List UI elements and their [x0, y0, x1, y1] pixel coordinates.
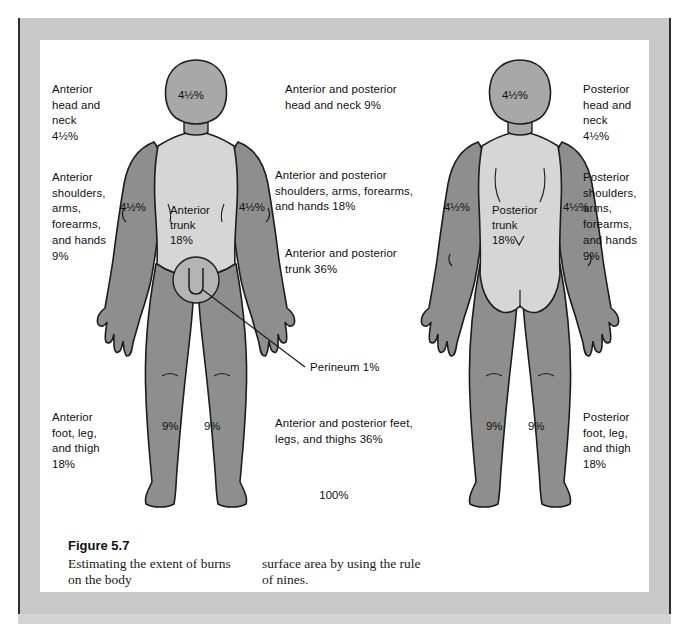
label-total-shoulders-arms-forearms-hands: Anterior and posterior shoulders, arms, … — [275, 168, 455, 215]
figure-caption-column-2: surface area by using the rule of nines. — [262, 556, 432, 589]
anterior-head-percent: 4½% — [178, 89, 204, 101]
posterior-left-leg-percent: 9% — [486, 420, 502, 432]
figure-caption-column-1: Estimating the extent of burns on the bo… — [68, 556, 238, 589]
label-total-head-and-neck: Anterior and posterior head and neck 9% — [285, 82, 455, 113]
label-anterior-shoulders-arms-forearms-hands: Anterior shoulders, arms, forearms, and … — [52, 170, 142, 264]
label-posterior-foot-leg-thigh: Posterior foot, leg, and thigh 18% — [583, 410, 669, 473]
label-posterior-head-and-neck: Posterior head and neck 4½% — [583, 82, 663, 145]
frame-band-top — [18, 18, 671, 40]
anterior-right-arm-percent: 4½% — [239, 201, 265, 213]
label-total-trunk: Anterior and posterior trunk 36% — [285, 246, 455, 277]
anterior-trunk-label: Anterior trunk 18% — [170, 203, 210, 248]
posterior-right-leg-percent: 9% — [528, 420, 544, 432]
figure-caption-title: Figure 5.7 — [68, 538, 488, 553]
posterior-trunk-label: Posterior trunk 18% — [492, 203, 538, 248]
label-total-body-percent: 100% — [304, 488, 364, 504]
frame-band-left — [18, 18, 40, 614]
label-total-feet-legs-thighs: Anterior and posterior feet, legs, and t… — [275, 416, 455, 447]
frame-rule-right — [669, 18, 671, 615]
anterior-left-leg-percent: 9% — [162, 420, 178, 432]
perineum-region — [173, 257, 219, 303]
label-posterior-shoulders-arms-forearms-hands: Posterior shoulders, arms, forearms, and… — [583, 170, 669, 264]
anterior-right-leg-percent: 9% — [204, 420, 220, 432]
label-anterior-foot-leg-thigh: Anterior foot, leg, and thigh 18% — [52, 410, 142, 473]
figure-caption: Figure 5.7 Estimating the extent of burn… — [68, 538, 488, 589]
label-anterior-head-and-neck: Anterior head and neck 4½% — [52, 82, 132, 145]
page-shadow — [18, 614, 671, 624]
frame-band-bottom — [18, 592, 671, 614]
label-perineum: Perineum 1% — [310, 360, 430, 376]
posterior-head-percent: 4½% — [502, 89, 528, 101]
frame-rule-left — [18, 18, 20, 615]
